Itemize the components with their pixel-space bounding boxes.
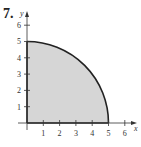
y-axis-label: y (19, 9, 24, 18)
x-tick-label: 5 (107, 129, 111, 138)
chart: 1 2 3 4 5 6 1 2 3 4 5 6 x y (0, 0, 141, 147)
y-tick-label: 3 (17, 70, 21, 79)
x-axis-label: x (133, 124, 138, 133)
x-tick-label: 2 (58, 129, 62, 138)
y-tick-label: 6 (17, 21, 21, 30)
y-tick-label: 5 (17, 37, 21, 46)
shaded-region (27, 42, 109, 124)
y-tick-label: 2 (17, 86, 21, 95)
x-tick-label: 3 (74, 129, 78, 138)
x-tick-label: 1 (41, 129, 45, 138)
x-tick-label: 6 (123, 129, 127, 138)
x-tick-label: 4 (90, 129, 94, 138)
y-axis-arrow-icon (25, 11, 29, 17)
y-tick-label: 4 (17, 54, 21, 63)
y-tick-label: 1 (17, 103, 21, 112)
